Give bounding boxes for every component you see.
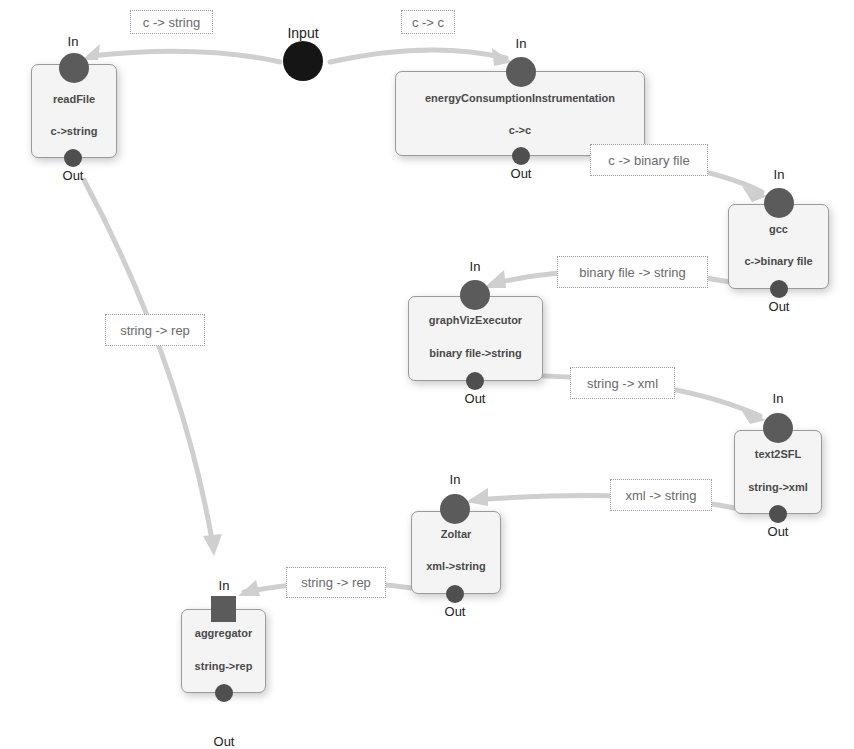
gcc-in-port[interactable] <box>764 188 794 218</box>
text2sfl-out-port[interactable] <box>769 505 787 523</box>
edge-input-energy <box>330 50 506 62</box>
edge-label-graphviz-text2sfl: string -> xml <box>570 367 675 399</box>
edge-label-input-energy: c -> c <box>401 10 455 34</box>
node-name: gcc <box>729 223 828 235</box>
graphviz-out-label: Out <box>455 391 495 406</box>
aggregator-in-port[interactable] <box>211 596 236 622</box>
aggregator-in-label: In <box>204 578 244 593</box>
gcc-out-port[interactable] <box>770 280 788 298</box>
edge-label-gcc-graphviz: binary file -> string <box>557 256 708 288</box>
node-type: c->c <box>396 124 644 136</box>
gcc-out-label: Out <box>759 299 799 314</box>
node-type: binary file->string <box>409 347 542 359</box>
edge-label-text2sfl-zoltar: xml -> string <box>610 479 712 511</box>
node-type: string->rep <box>182 660 265 672</box>
energy-in-port[interactable] <box>506 57 536 87</box>
energy-out-port[interactable] <box>512 147 530 165</box>
graphviz-out-port[interactable] <box>466 372 484 390</box>
node-name: readFile <box>32 93 116 105</box>
text2sfl-out-label: Out <box>758 524 798 539</box>
aggregator-out-label: Out <box>204 734 244 749</box>
edge-label-energy-gcc: c -> binary file <box>590 144 708 176</box>
edge-input-readfile <box>90 51 280 62</box>
input-source-label: Input <box>273 25 333 41</box>
node-name: energyConsumptionInstrumentation <box>396 92 644 104</box>
arrowhead-icon <box>466 488 488 506</box>
edge-label-zoltar-aggregator: string -> rep <box>286 567 386 598</box>
readfile-in-port[interactable] <box>59 53 89 83</box>
text2sfl-in-port[interactable] <box>763 413 793 443</box>
arrowhead-icon <box>203 534 222 556</box>
readfile-in-label: In <box>53 34 93 49</box>
node-type: xml->string <box>412 560 500 572</box>
aggregator-out-port[interactable] <box>215 684 233 702</box>
node-name: graphVizExecutor <box>409 314 542 326</box>
edge-label-input-readfile: c -> string <box>130 10 213 34</box>
zoltar-out-label: Out <box>435 604 475 619</box>
input-source-node[interactable] <box>283 41 323 81</box>
node-type: c->string <box>32 125 116 137</box>
edge-readfile-aggregator <box>84 180 212 540</box>
energy-in-label: In <box>501 36 541 51</box>
node-name: aggregator <box>182 627 265 639</box>
zoltar-in-label: In <box>435 472 475 487</box>
node-type: string->xml <box>735 481 821 493</box>
gcc-in-label: In <box>759 167 799 182</box>
node-type: c->binary file <box>729 255 828 267</box>
graphviz-in-port[interactable] <box>460 280 490 310</box>
readfile-out-label: Out <box>53 168 93 183</box>
text2sfl-in-label: In <box>758 391 798 406</box>
zoltar-in-port[interactable] <box>440 494 470 524</box>
energy-out-label: Out <box>501 166 541 181</box>
node-name: Zoltar <box>412 528 500 540</box>
node-name: text2SFL <box>735 448 821 460</box>
graphviz-in-label: In <box>455 259 495 274</box>
zoltar-out-port[interactable] <box>446 585 464 603</box>
readfile-out-port[interactable] <box>64 149 82 167</box>
edge-label-readfile-aggregator: string -> rep <box>105 314 205 346</box>
